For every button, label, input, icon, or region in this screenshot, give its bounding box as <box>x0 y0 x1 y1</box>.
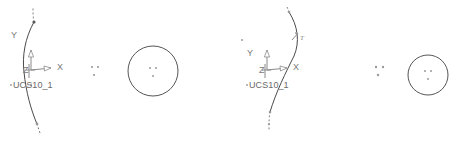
arc-node-marker[interactable] <box>268 123 270 125</box>
cluster-dot <box>93 74 95 76</box>
arc-dotted-extension-bottom <box>269 112 270 129</box>
circle-center-dot <box>430 70 432 72</box>
dot-cluster[interactable] <box>375 66 384 76</box>
right-viewport-graphics: T Y <box>226 0 451 141</box>
left-viewport[interactable]: Y X Z UCS10_1 <box>0 0 226 141</box>
arc-endpoint-marker[interactable] <box>36 123 39 126</box>
arc-endpoint-marker[interactable] <box>269 111 272 114</box>
circle-center-dot <box>427 78 429 80</box>
dot-cluster[interactable] <box>91 66 99 76</box>
ucs-z-axis-label: Z <box>259 65 265 75</box>
ucs-y-axis-label: Y <box>247 48 253 58</box>
cluster-dot <box>375 66 377 68</box>
cluster-dot <box>91 66 93 68</box>
circle-outline[interactable] <box>128 46 178 96</box>
left-viewport-graphics: Y X Z UCS10_1 <box>0 0 226 141</box>
ucs-name-label: UCS10_1 <box>249 80 289 90</box>
arc-endpoint-marker[interactable] <box>32 20 35 23</box>
circle-entity[interactable] <box>408 55 448 95</box>
stray-dot <box>241 39 243 41</box>
arc-endpoint-marker[interactable] <box>288 11 291 14</box>
circle-entity[interactable] <box>128 46 178 96</box>
ucs-label-bullet <box>10 84 12 86</box>
arc-dotted-extension-bottom <box>37 124 40 133</box>
ucs-name-label: UCS10_1 <box>13 80 53 90</box>
ucs-label-bullet <box>246 84 248 86</box>
circle-center-dot <box>424 70 426 72</box>
circle-center-dot <box>152 75 154 77</box>
ucs-x-axis-label: X <box>57 62 63 72</box>
cluster-dot <box>377 74 379 76</box>
arc-dotted-extension-top <box>33 8 34 22</box>
leader-tick[interactable]: T <box>292 33 305 42</box>
ucs-y-axis-label: Y <box>11 30 17 40</box>
right-viewport[interactable]: T Y <box>226 0 451 141</box>
circle-outline[interactable] <box>408 55 448 95</box>
circle-center-dot <box>155 67 157 69</box>
ucs-x-axis-label: X <box>293 62 299 72</box>
ucs-z-axis-label: Z <box>23 65 29 75</box>
cluster-dot <box>382 66 384 68</box>
stray-dot <box>295 32 297 34</box>
leader-label: T <box>300 34 305 42</box>
circle-center-dot <box>149 67 151 69</box>
cluster-dot <box>97 66 99 68</box>
drawing-canvas[interactable]: Y X Z UCS10_1 <box>0 0 451 141</box>
